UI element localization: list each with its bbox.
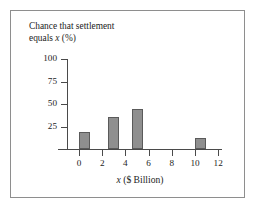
y-axis-tick-label: 25 xyxy=(31,121,57,131)
x-axis-tick xyxy=(125,150,126,156)
bar xyxy=(108,117,119,149)
x-axis-tick xyxy=(149,150,150,156)
bar xyxy=(132,109,143,149)
figure: Chance that settlement equals x (%) 2550… xyxy=(0,0,263,212)
bar xyxy=(195,138,206,149)
x-axis-line xyxy=(58,149,222,150)
x-axis-tick-label: 8 xyxy=(162,158,182,168)
x-axis-tick xyxy=(102,150,103,156)
y-axis-line xyxy=(67,59,68,150)
y-axis-tick xyxy=(61,82,67,83)
x-axis-tick-label: 12 xyxy=(208,158,228,168)
y-axis-tick xyxy=(61,59,67,60)
y-axis-tick xyxy=(61,104,67,105)
x-axis-variable: x xyxy=(117,174,121,185)
y-axis-tick-label: 100 xyxy=(31,53,57,63)
x-axis-tick-label: 4 xyxy=(115,158,135,168)
x-axis-tick xyxy=(218,150,219,156)
x-axis-tick-label: 10 xyxy=(185,158,205,168)
y-axis-tick-label: 50 xyxy=(31,98,57,108)
y-axis-tick xyxy=(61,127,67,128)
x-axis-title: x ($ Billion) xyxy=(58,174,222,185)
y-axis-tick-label: 75 xyxy=(31,76,57,86)
x-axis-tick-label: 0 xyxy=(69,158,89,168)
bar xyxy=(79,132,90,149)
x-axis-tick-label: 6 xyxy=(139,158,159,168)
x-axis-tick xyxy=(79,150,80,156)
x-axis-tick-label: 2 xyxy=(92,158,112,168)
x-axis-tick xyxy=(172,150,173,156)
x-axis-tick xyxy=(195,150,196,156)
